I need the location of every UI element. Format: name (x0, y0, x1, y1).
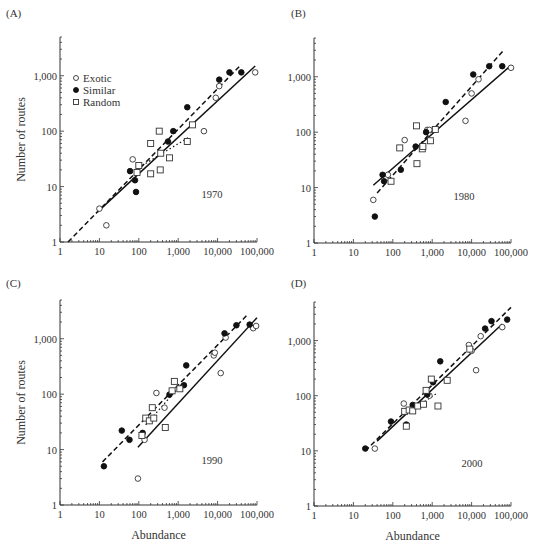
x-tick-label: 100 (131, 509, 147, 520)
data-point-similar (227, 70, 233, 76)
data-point-exotic (253, 323, 259, 329)
data-point-random (169, 388, 175, 394)
data-point-random (166, 155, 172, 161)
data-point-exotic (508, 65, 514, 71)
data-point-similar (499, 63, 505, 69)
year-label: 1980 (454, 191, 475, 202)
data-point-random (184, 139, 190, 145)
x-axis-title: Abundance (131, 528, 186, 542)
chart-panel-a: (A)1101001,00010,000100,0001101001,000Nu… (6, 7, 274, 257)
data-point-exotic (473, 367, 479, 373)
y-tick-label: 1 (306, 501, 311, 512)
data-point-exotic (213, 95, 219, 101)
fit-line-dotted (139, 137, 190, 168)
x-tick-label: 100,000 (240, 246, 274, 257)
fit-line-solid (373, 65, 511, 185)
data-point-similar (170, 128, 176, 134)
data-point-exotic (201, 128, 207, 134)
year-label: 1990 (202, 455, 223, 466)
panel-label: (B) (291, 7, 306, 20)
data-point-random (157, 167, 163, 173)
data-point-similar (362, 446, 368, 452)
legend-label: Exotic (83, 72, 112, 84)
data-point-random (136, 163, 142, 169)
data-point-exotic (104, 223, 110, 229)
data-point-similar (388, 419, 394, 425)
y-tick-label: 10 (47, 445, 58, 456)
data-point-random (388, 178, 394, 184)
data-point-similar (443, 99, 449, 105)
data-point-similar (504, 317, 510, 323)
data-point-similar (423, 129, 429, 135)
data-point-random (414, 123, 420, 129)
x-tick-label: 10,000 (457, 247, 486, 258)
y-tick-label: 1,000 (33, 334, 57, 345)
legend-square-icon (74, 100, 79, 105)
data-point-similar (486, 63, 492, 69)
data-point-exotic (252, 70, 258, 76)
data-point-similar (127, 437, 133, 443)
x-tick-label: 10,000 (457, 510, 486, 521)
data-point-random (397, 145, 403, 151)
data-point-similar (216, 77, 222, 83)
x-tick-label: 1 (57, 509, 62, 520)
data-point-exotic (216, 83, 222, 89)
x-tick-label: 1,000 (166, 246, 190, 257)
data-point-similar (437, 359, 443, 365)
data-point-random (171, 378, 177, 384)
x-tick-label: 10 (94, 246, 105, 257)
data-point-similar (127, 168, 133, 174)
data-point-random (420, 401, 426, 407)
fit-line-dashed (377, 50, 504, 193)
data-point-similar (372, 214, 378, 220)
y-tick-label: 100 (295, 127, 311, 138)
fit-line-dashed (365, 307, 511, 451)
data-point-similar (101, 463, 107, 469)
data-point-similar (184, 104, 190, 110)
x-tick-label: 10 (94, 509, 105, 520)
data-point-exotic (469, 91, 475, 97)
y-tick-label: 1,000 (287, 336, 311, 347)
legend-label: Random (83, 96, 121, 108)
y-tick-label: 1 (306, 238, 311, 249)
data-point-random (420, 144, 426, 150)
chart-panel-b: (B)1101001,00010,000100,0001101001,00019… (287, 7, 528, 258)
data-point-similar (119, 428, 125, 434)
panel-label: (C) (6, 277, 21, 290)
data-point-random (162, 425, 168, 431)
x-tick-label: 10,000 (203, 246, 232, 257)
data-point-exotic (212, 350, 218, 356)
x-tick-label: 1 (57, 246, 62, 257)
x-tick-label: 10,000 (203, 509, 232, 520)
data-point-similar (247, 322, 253, 328)
data-point-similar (381, 178, 387, 184)
year-label: 1970 (202, 189, 223, 200)
data-point-similar (183, 363, 189, 369)
x-tick-label: 100 (385, 510, 401, 521)
y-axis-title: Number of routes (14, 360, 28, 445)
data-point-exotic (372, 446, 378, 452)
data-point-exotic (463, 118, 469, 124)
data-point-exotic (130, 157, 136, 163)
chart-panel-c: (C)1101001,00010,000100,0001101001,000Nu… (6, 277, 274, 542)
data-point-random (158, 150, 164, 156)
legend-open-circle-icon (74, 76, 79, 81)
data-point-random (423, 387, 429, 393)
y-tick-label: 10 (301, 446, 312, 457)
data-point-exotic (154, 390, 160, 396)
x-tick-label: 100,000 (494, 510, 528, 521)
legend: ExoticSimilarRandom (74, 72, 121, 108)
data-point-similar (489, 318, 495, 324)
x-tick-label: 1,000 (420, 247, 444, 258)
y-tick-label: 10 (47, 182, 58, 193)
x-tick-label: 1 (311, 247, 316, 258)
data-point-random (148, 140, 154, 146)
data-point-random (151, 415, 157, 421)
data-point-random (156, 128, 162, 134)
data-point-exotic (478, 333, 484, 339)
y-tick-label: 1 (52, 500, 57, 511)
data-point-exotic (371, 197, 377, 203)
data-point-similar (133, 189, 139, 195)
x-tick-label: 100,000 (494, 247, 528, 258)
data-point-similar (482, 326, 488, 332)
